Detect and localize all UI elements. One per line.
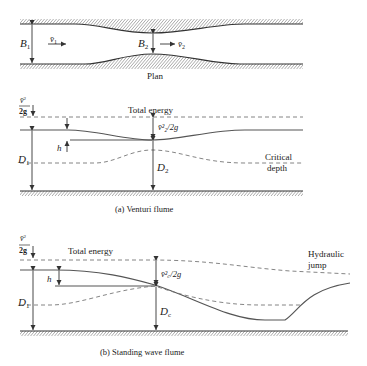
hydraulic-jump-label-1: Hydraulic [308, 249, 344, 259]
venturi-caption: (a) Venturi flume [115, 204, 174, 214]
svg-text:v̄2: v̄2 [20, 96, 27, 105]
svg-text:2g: 2g [19, 246, 27, 255]
h-label-b: h [47, 274, 52, 284]
h-label: h [57, 143, 62, 153]
channel-floor-hatch-b [20, 331, 348, 336]
hydraulic-jump-label-2: jump [307, 260, 327, 270]
velocity-head-1-label: v̄2 2g [19, 96, 30, 116]
critical-depth-label-1: Critical [265, 152, 292, 162]
plan-top-wall-hatch [20, 19, 303, 33]
v1-label: v̄1 [50, 34, 57, 45]
dc-label: Dc [159, 305, 171, 319]
velocity-head-1-label-b: v̄2 2g [19, 234, 30, 255]
b2-label: B2 [138, 37, 149, 51]
plan-caption: Plan [147, 71, 164, 81]
svg-text:2g: 2g [19, 107, 27, 116]
velocity-head-c-label: v̄²꜀/2g [161, 269, 181, 279]
b1-label: B1 [20, 37, 31, 51]
d1-label-b: D1 [17, 296, 30, 310]
v2-label: v̄2 [178, 39, 185, 50]
standing-wave-flume: v̄2 2g Total energy Hydraulic jump h v̄²… [17, 234, 350, 357]
standing-wave-caption: (b) Standing wave flume [100, 347, 184, 357]
d1-label: D1 [17, 153, 30, 167]
total-energy-line-b [20, 260, 350, 274]
plan-bottom-wall-hatch [20, 54, 303, 69]
critical-depth-line-b [20, 286, 302, 305]
svg-text:v̄2: v̄2 [20, 234, 27, 243]
d2-label: D2 [156, 161, 169, 175]
velocity-head-2-label: v̄²₂/2g [158, 122, 178, 132]
channel-floor-hatch [20, 191, 303, 196]
total-energy-label-b: Total energy [68, 246, 113, 256]
plan-view: B1 v̄1 B2 v̄2 Plan [20, 19, 303, 81]
venturi-flume: v̄2 2g Total energy h v̄²₂/2g D1 D2 Crit… [17, 96, 303, 214]
flume-diagram: B1 v̄1 B2 v̄2 Plan v̄2 2g Total energy h [0, 0, 367, 366]
critical-depth-label-2: depth [267, 163, 287, 173]
total-energy-label: Total energy [128, 105, 173, 115]
